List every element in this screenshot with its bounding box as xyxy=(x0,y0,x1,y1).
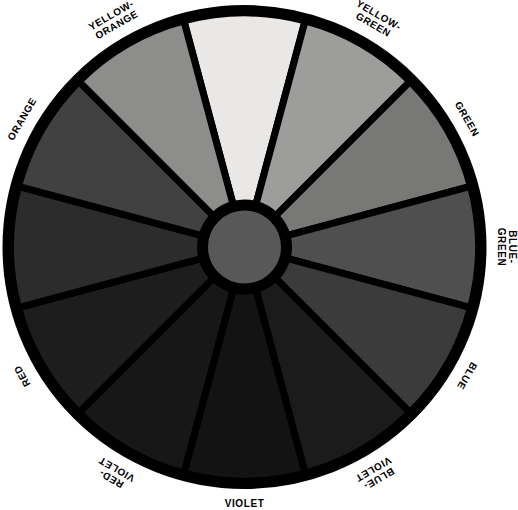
wheel-label-blue-green: BLUE- GREEN xyxy=(495,228,517,267)
center-hub xyxy=(205,207,285,287)
wheel-label-violet: VIOLET xyxy=(225,498,265,509)
